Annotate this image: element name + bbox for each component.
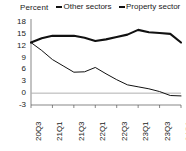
series-lines — [31, 30, 181, 96]
chart-container: Percent Other sectors Property sector 18… — [0, 0, 186, 151]
plot-area — [0, 0, 186, 151]
series-line-other-sectors — [31, 30, 181, 43]
series-line-property-sector — [31, 43, 181, 96]
